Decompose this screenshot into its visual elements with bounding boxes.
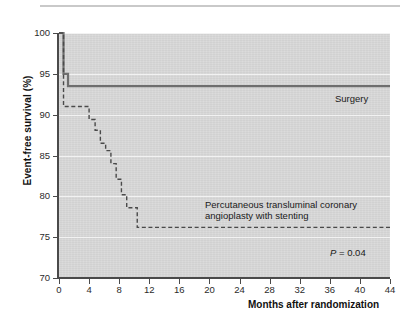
annotation-surgery: Surgery: [335, 93, 368, 104]
surgery-curve: [59, 33, 390, 86]
curves-svg: [0, 0, 409, 320]
figure-container: 707580859095100 048121620242832364044 Ev…: [0, 0, 409, 320]
p-value-number: = 0.04: [336, 247, 365, 258]
annotation-ptca: Percutaneous transluminal coronary angio…: [205, 199, 385, 221]
annotation-p-value: P = 0.04: [330, 247, 366, 258]
